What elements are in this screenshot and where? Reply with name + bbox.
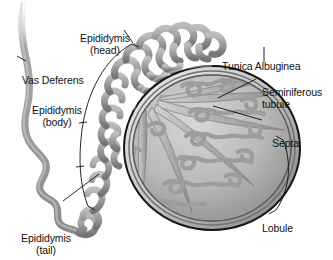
label-lobule-text: Lobule [262, 222, 293, 234]
label-lobule: Lobule [262, 198, 293, 258]
epididymis-body-coil [101, 76, 126, 166]
label-epididymis-body-text: Epididymis (body) [14, 104, 100, 128]
label-septa-text: Septa [272, 137, 299, 149]
label-epididymis-tail-text: Epididymis (tail) [4, 232, 88, 256]
label-epididymis-tail: Epididymis (tail) [4, 208, 88, 260]
label-septa: Septa [272, 113, 299, 173]
label-seminiferous-tubule-text: Seminiferous tubule [262, 86, 322, 110]
label-epididymis-body: Epididymis (body) [14, 80, 100, 152]
